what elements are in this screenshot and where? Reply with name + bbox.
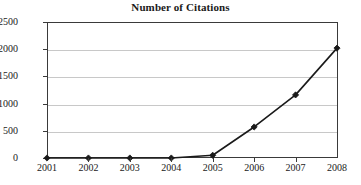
x-axis-tick-label: 2002: [78, 162, 98, 173]
plot-wrapper: [47, 22, 338, 158]
x-axis-tick-label: 2001: [37, 162, 57, 173]
y-axis-tick-label: 2000: [0, 44, 18, 54]
y-axis-tick-label: 1500: [0, 71, 18, 81]
x-axis-tick-label: 2006: [244, 162, 264, 173]
y-axis-tick-label: 0: [0, 153, 18, 163]
y-axis-tick-label: 1000: [0, 99, 18, 109]
y-axis-tick-label: 500: [0, 126, 18, 136]
x-axis-tick-label: 2005: [203, 162, 223, 173]
series-line: [47, 48, 337, 158]
y-axis-tick-label: 2500: [0, 17, 18, 27]
chart-title: Number of Citations: [0, 1, 361, 13]
series-layer: [47, 22, 338, 158]
x-axis-tick-label: 2007: [286, 162, 306, 173]
x-axis-tick-label: 2004: [161, 162, 181, 173]
citations-line-chart: Number of Citations 05001000150020002500…: [0, 0, 361, 185]
x-axis-tick-label: 2008: [327, 162, 347, 173]
data-point-marker: [44, 155, 50, 161]
x-axis-tick-label: 2003: [120, 162, 140, 173]
